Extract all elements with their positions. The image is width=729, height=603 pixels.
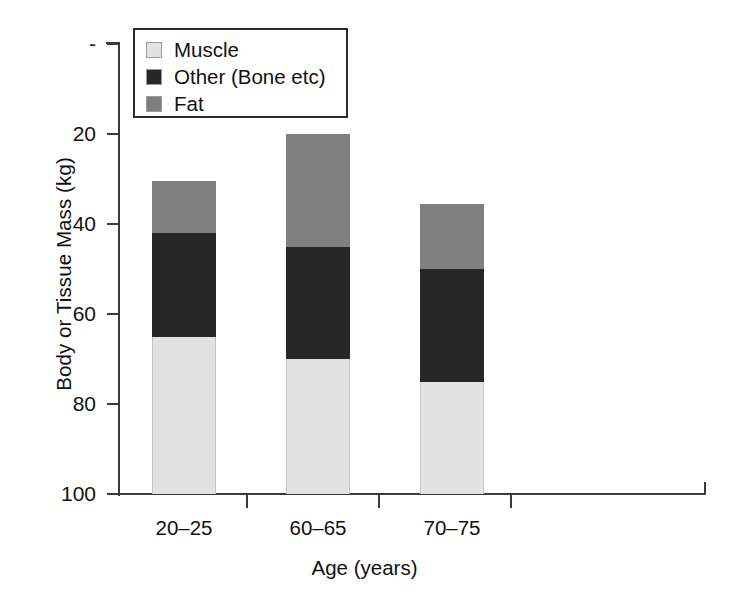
bar-segment: [420, 269, 484, 382]
legend-item-muscle: Muscle: [146, 37, 346, 63]
y-tick-80: [107, 133, 119, 135]
y-tick-0: [107, 493, 119, 495]
y-tick-label-20: 80: [22, 393, 96, 414]
bar-segment: [152, 181, 216, 233]
y-tick-100: [107, 43, 119, 45]
bar-segment: [286, 247, 350, 360]
legend-item-fat: Fat: [146, 91, 346, 117]
y-tick-60: [107, 223, 119, 225]
bar-segment: [286, 359, 350, 494]
bar-segment: [286, 134, 350, 247]
x-tick-1: [378, 495, 380, 508]
x-axis-title: Age (years): [0, 556, 729, 580]
legend-swatch-muscle: [146, 42, 162, 58]
bar-segment: [152, 337, 216, 495]
x-tick-0: [246, 495, 248, 508]
bar-segment: [152, 233, 216, 337]
bar-segment: [420, 382, 484, 495]
y-axis-line: [118, 42, 120, 496]
y-tick-20: [107, 403, 119, 405]
bar-segment: [420, 204, 484, 269]
x-tick-2: [510, 495, 512, 508]
y-tick-40: [107, 313, 119, 315]
x-tick-label-2: 70–75: [372, 516, 532, 540]
legend-label-other: Other (Bone etc): [174, 66, 326, 88]
legend-label-muscle: Muscle: [174, 39, 239, 61]
legend: Muscle Other (Bone etc) Fat: [133, 28, 348, 118]
legend-swatch-other: [146, 69, 162, 85]
y-tick-label-0: 100: [22, 483, 96, 504]
y-tick-label-60: 40: [22, 213, 96, 234]
legend-swatch-fat: [146, 96, 162, 112]
y-tick-label-80: 20: [22, 123, 96, 144]
y-tick-label-100: -: [22, 33, 96, 54]
legend-item-other: Other (Bone etc): [146, 64, 346, 90]
stacked-bar-chart: Body or Tissue Mass (kg) 10080604020- 20…: [0, 0, 729, 603]
y-tick-label-40: 60: [22, 303, 96, 324]
x-axis-right-cap: [704, 482, 706, 495]
legend-label-fat: Fat: [174, 93, 204, 115]
